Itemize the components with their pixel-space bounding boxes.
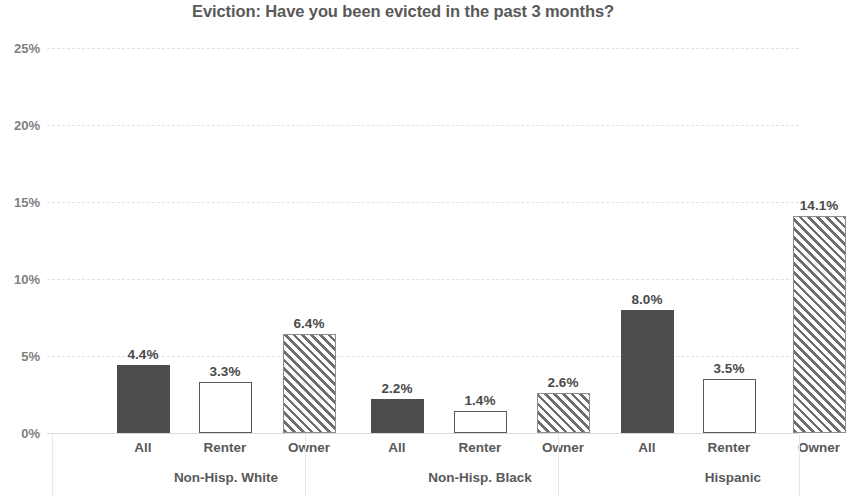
gridline — [47, 48, 799, 49]
group-axis-label: Non-Hisp. Black — [380, 470, 580, 485]
category-tick-label: All — [602, 440, 692, 455]
bar — [199, 382, 252, 433]
bar-value-label: 4.4% — [98, 347, 188, 362]
axis-divider — [558, 434, 559, 496]
bar — [371, 399, 424, 433]
group-axis-label: Non-Hisp. White — [126, 470, 326, 485]
category-tick-label: Renter — [684, 440, 774, 455]
category-tick-label: All — [98, 440, 188, 455]
plot-area: 4.4%3.3%6.4%2.2%1.4%2.6%8.0%3.5%14.1% — [47, 48, 799, 433]
bar-value-label: 2.6% — [518, 375, 608, 390]
bar-value-label: 3.5% — [684, 361, 774, 376]
bar — [793, 216, 846, 433]
y-axis-tick-label: 25% — [0, 41, 40, 56]
bar-value-label: 3.3% — [180, 364, 270, 379]
bar — [283, 334, 336, 433]
bar — [537, 393, 590, 433]
bar-value-label: 6.4% — [264, 316, 354, 331]
bar — [703, 379, 756, 433]
category-tick-label: All — [352, 440, 442, 455]
gridline — [47, 125, 799, 126]
bar-value-label: 2.2% — [352, 381, 442, 396]
axis-divider — [305, 434, 306, 496]
bar — [621, 310, 674, 433]
category-tick-label: Renter — [180, 440, 270, 455]
axis-baseline — [47, 433, 799, 434]
bar-value-label: 1.4% — [435, 393, 525, 408]
y-axis-tick-label: 20% — [0, 118, 40, 133]
bar-value-label: 8.0% — [602, 292, 692, 307]
category-tick-label: Owner — [518, 440, 608, 455]
y-axis-tick-label: 15% — [0, 195, 40, 210]
gridline — [47, 202, 799, 203]
bar — [117, 365, 170, 433]
axis-divider — [52, 434, 53, 496]
group-axis-label: Hispanic — [633, 470, 833, 485]
bar-value-label: 14.1% — [774, 198, 850, 213]
chart-title: Eviction: Have you been evicted in the p… — [0, 2, 806, 21]
axis-divider — [799, 434, 800, 496]
gridline — [47, 279, 799, 280]
category-tick-label: Renter — [435, 440, 525, 455]
category-axis: AllRenterOwnerAllRenterOwnerAllRenterOwn… — [47, 440, 799, 466]
category-tick-label: Owner — [774, 440, 850, 455]
bar — [454, 411, 507, 433]
y-axis-tick-label: 5% — [0, 349, 40, 364]
y-axis-tick-label: 0% — [0, 426, 40, 441]
group-axis: Non-Hisp. WhiteNon-Hisp. BlackHispanic — [47, 470, 799, 496]
category-tick-label: Owner — [264, 440, 354, 455]
y-axis-tick-label: 10% — [0, 272, 40, 287]
